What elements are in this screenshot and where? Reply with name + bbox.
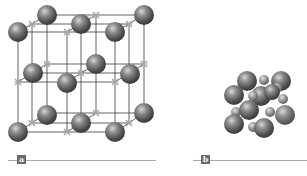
panel-a-rule [8, 160, 156, 161]
panel-b-label: b [201, 155, 210, 164]
figure: a b [0, 0, 307, 176]
space-filling-model [224, 71, 295, 138]
panel-a-label: a [17, 155, 26, 164]
lattice-diagram [0, 0, 307, 176]
panel-b-rule [193, 160, 307, 161]
